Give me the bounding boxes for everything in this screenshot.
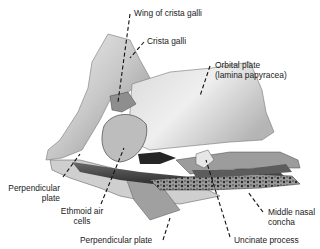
label-middle-nasal-concha-line2: concha [268, 218, 295, 228]
ethmoid-bone-diagram: Wing of crista galli Crista galli Orbita… [0, 0, 320, 249]
label-wing-of-crista-galli: Wing of crista galli [134, 9, 202, 19]
label-perpendicular-plate-left-line2: plate [2, 194, 60, 204]
label-orbital-plate-line2: (lamina papyracea) [215, 71, 287, 81]
label-perpendicular-plate-bottom: Perpendicular plate [80, 236, 152, 246]
label-ethmoid-air-cells-line2: cells [52, 217, 112, 227]
label-uncinate-process: Uncinate process [234, 236, 299, 246]
label-crista-galli: Crista galli [147, 37, 186, 47]
